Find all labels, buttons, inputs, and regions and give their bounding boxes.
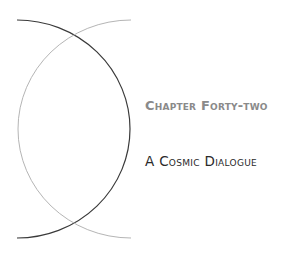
interlocking-arcs-ornament: [0, 0, 308, 259]
chapter-title: A Cosmic Dialogue: [145, 153, 257, 169]
dark-arc: [17, 20, 130, 238]
light-arc: [18, 20, 131, 238]
chapter-number: Chapter Forty-two: [145, 98, 268, 113]
